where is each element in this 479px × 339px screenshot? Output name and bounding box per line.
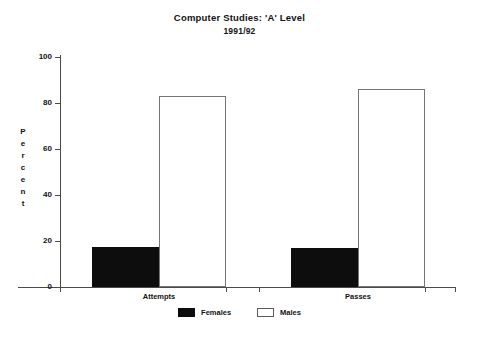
x-axis-line <box>18 287 456 288</box>
chart-subtitle: 1991/92 <box>0 26 479 36</box>
y-axis-tick-label: 80 <box>26 98 52 107</box>
y-axis-tick-label: 60 <box>26 144 52 153</box>
bar-attempts-males <box>159 96 226 287</box>
legend-swatch-males-icon <box>257 308 274 317</box>
bar-passes-males <box>358 89 425 287</box>
x-axis-category-label: Passes <box>291 292 425 301</box>
y-axis-title-letter: P <box>17 126 29 138</box>
y-axis-tick-label: 0 <box>26 282 52 291</box>
bar-attempts-females <box>92 247 159 287</box>
x-axis-tick <box>60 288 61 292</box>
legend-label-females: Females <box>201 308 231 317</box>
bar-passes-females <box>291 248 358 287</box>
legend-item-males[interactable]: Males <box>257 308 301 317</box>
y-axis-title-letter: t <box>17 198 29 210</box>
x-axis-tick <box>425 288 426 292</box>
y-axis-title-letter: e <box>17 174 29 186</box>
x-axis-tick <box>259 288 260 292</box>
legend-item-females[interactable]: Females <box>178 308 231 317</box>
legend-label-males: Males <box>280 308 301 317</box>
legend-swatch-females-icon <box>178 308 195 317</box>
y-axis-tick-label: 40 <box>26 190 52 199</box>
y-axis-tick-label: 20 <box>26 236 52 245</box>
x-axis-category-label: Attempts <box>92 292 226 301</box>
y-axis-tick-label: 100 <box>26 52 52 61</box>
y-axis-title-letter: c <box>17 162 29 174</box>
x-axis-tick <box>226 288 227 292</box>
x-axis-tick <box>455 288 456 292</box>
chart-legend: Females Males <box>0 308 479 317</box>
chart-title: Computer Studies: 'A' Level <box>0 12 479 23</box>
plot-area <box>60 57 455 287</box>
